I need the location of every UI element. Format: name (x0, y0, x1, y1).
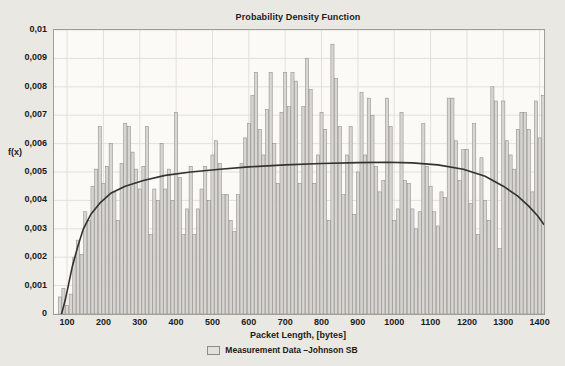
histogram-bar (273, 144, 276, 314)
histogram-bar (335, 78, 338, 314)
histogram-bar (295, 81, 298, 314)
histogram-bar (516, 129, 519, 314)
histogram-bar (414, 229, 417, 314)
histogram-bar (454, 141, 457, 314)
histogram-bar (287, 107, 290, 314)
y-tick-label: 0,003 (0, 223, 47, 233)
y-tick-label: 0,006 (0, 138, 47, 148)
histogram-bar (458, 181, 461, 314)
histogram-bar (534, 101, 537, 314)
histogram-bar (349, 127, 352, 314)
y-tick-label: 0,005 (0, 166, 47, 176)
histogram-bar (385, 98, 388, 314)
histogram-bar (524, 112, 527, 314)
x-tick-label: 600 (231, 317, 267, 327)
histogram-bar (236, 195, 239, 314)
histogram-bar (91, 186, 94, 314)
histogram-bar (124, 124, 127, 314)
histogram-bar (371, 115, 374, 314)
histogram-bar (178, 178, 181, 314)
histogram-bar (520, 112, 523, 314)
plot-area (53, 29, 545, 315)
histogram-bar (338, 127, 341, 314)
histogram-bar (451, 98, 454, 314)
histogram-bar (127, 127, 130, 314)
histogram-bar (444, 198, 447, 314)
histogram-bar (218, 163, 221, 314)
histogram-bar (265, 110, 268, 314)
histogram-bar (356, 172, 359, 314)
histogram-bar (229, 220, 232, 314)
plot-svg (54, 30, 544, 314)
histogram-bar (505, 141, 508, 314)
y-tick-label: 0,009 (0, 52, 47, 62)
histogram-bar (80, 254, 83, 314)
histogram-bar (189, 166, 192, 314)
histogram-bar (480, 158, 483, 314)
histogram-bar (393, 220, 396, 314)
histogram-bar (175, 112, 178, 314)
histogram-bar (98, 127, 101, 314)
histogram-bar (251, 95, 254, 314)
x-tick-label: 1000 (376, 317, 412, 327)
histogram-bar (324, 129, 327, 314)
histogram-bar (193, 234, 196, 314)
histogram-bar (120, 163, 123, 314)
histogram-bar (538, 138, 541, 314)
x-tick-label: 400 (158, 317, 194, 327)
histogram-bar (276, 183, 279, 314)
histogram-bar (360, 92, 363, 314)
histogram-bar (389, 127, 392, 314)
histogram-bar (491, 87, 494, 314)
histogram-bar (364, 155, 367, 314)
x-tick-label: 1100 (413, 317, 449, 327)
histogram-bar (374, 166, 377, 314)
histogram-bar (135, 169, 138, 314)
histogram-bar (262, 155, 265, 314)
histogram-bar (233, 232, 236, 314)
histogram-bar (291, 73, 294, 314)
histogram-bar (331, 44, 334, 314)
histogram-bar (95, 169, 98, 314)
histogram-bar (222, 195, 225, 314)
histogram-bar (167, 169, 170, 314)
histogram-bar (382, 181, 385, 314)
histogram-bar (153, 189, 156, 314)
histogram-bar (396, 209, 399, 314)
x-tick-label: 200 (85, 317, 121, 327)
x-tick-label: 900 (340, 317, 376, 327)
histogram-bar (509, 155, 512, 314)
histogram-bar (225, 195, 228, 314)
histogram-bar (429, 186, 432, 314)
histogram-bar (465, 149, 468, 314)
histogram-bar (240, 163, 243, 314)
x-tick-label: 800 (304, 317, 340, 327)
histogram-bar (58, 297, 61, 314)
histogram-bar (407, 183, 410, 314)
y-tick-label: 0 (0, 308, 47, 318)
histogram-bar (433, 212, 436, 314)
histogram-bar (171, 200, 174, 314)
histogram-bar (113, 192, 116, 314)
histogram-bar (345, 155, 348, 314)
histogram-bar (164, 189, 167, 314)
histogram-bar (255, 73, 258, 314)
histogram-bar (447, 98, 450, 314)
legend-histogram-swatch-icon (207, 346, 220, 355)
x-tick-label: 500 (194, 317, 230, 327)
histogram-bar (284, 73, 287, 314)
x-tick-label: 1300 (485, 317, 521, 327)
histogram-bar (342, 195, 345, 314)
histogram-bar (131, 152, 134, 314)
chart-title: Probability Density Function (53, 12, 543, 22)
histogram-bar (487, 220, 490, 314)
x-tick-label: 100 (49, 317, 85, 327)
histogram-bar (367, 98, 370, 314)
histogram-bar (69, 294, 72, 314)
histogram-bar (309, 90, 312, 314)
histogram-bar (425, 166, 428, 314)
x-tick-label: 1200 (449, 317, 485, 327)
histogram-bar (411, 209, 414, 314)
x-tick-label: 700 (267, 317, 303, 327)
histogram-bar (106, 166, 109, 314)
